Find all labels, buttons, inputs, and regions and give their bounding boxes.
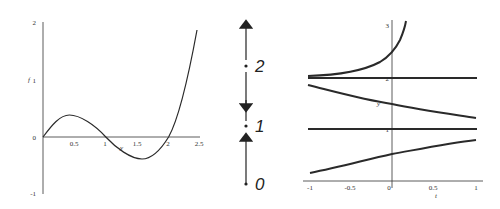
right-x-tick: 0.5 [429,184,438,192]
left-x-tick: 2.5 [195,140,204,148]
left-y-tick: 2 [33,19,37,27]
left-x-tick: 2 [166,140,170,148]
figure-canvas: 2 1 0 -1 0.5 1 1.5 2 2.5 f y 2 1 0 [0,0,500,209]
right-x-tick: 0 [387,184,391,192]
left-x-tick: 1 [103,140,107,148]
left-x-tick: 0.5 [70,140,79,148]
equilibrium-dot [244,124,247,127]
solution-curve-0-to-1 [310,140,476,173]
phase-line: 2 1 0 [244,24,265,194]
right-y-tick: 3 [386,22,390,30]
right-x-tick: 1 [474,184,478,192]
left-y-label: f [28,76,31,84]
equilibrium-label: 2 [254,57,265,76]
equilibrium-dot [244,182,247,185]
f-curve [43,30,197,159]
left-y-tick: 1 [33,77,37,85]
equilibrium-label: 0 [255,175,265,194]
equilibrium-dot [244,64,247,67]
right-plot: 3 2 1 -1 -0.5 0 0.5 1 t y [303,20,483,200]
left-y-tick: 0 [33,134,37,142]
right-x-tick: -0.5 [344,184,356,192]
right-x-tick: -1 [307,184,313,192]
left-x-tick: 1.5 [133,140,142,148]
solution-curve-above-2 [308,21,406,76]
right-x-label: t [435,192,438,200]
left-y-tick: -1 [30,190,36,198]
equilibrium-label: 1 [255,117,264,136]
left-plot: 2 1 0 -1 0.5 1 1.5 2 2.5 f y [28,19,204,198]
